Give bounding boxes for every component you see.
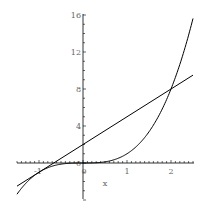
y-tick-label: 4: [76, 122, 81, 131]
x-tick-label: 1: [124, 167, 129, 176]
x-tick-label: 0: [81, 167, 86, 176]
x-axis-label: x: [103, 179, 108, 188]
tangent-line: [17, 75, 193, 186]
axes: [17, 14, 194, 199]
function-plot: -1 0 1 2 x 16 12 8 4 0: [0, 0, 210, 209]
y-tick-label: 8: [76, 85, 81, 94]
x-tick-label: 2: [168, 167, 173, 176]
cubic-curve: [17, 18, 193, 194]
y-tick-label: 12: [71, 48, 81, 57]
y-tick-label: 16: [71, 11, 81, 20]
axis-ticks: [17, 15, 193, 200]
